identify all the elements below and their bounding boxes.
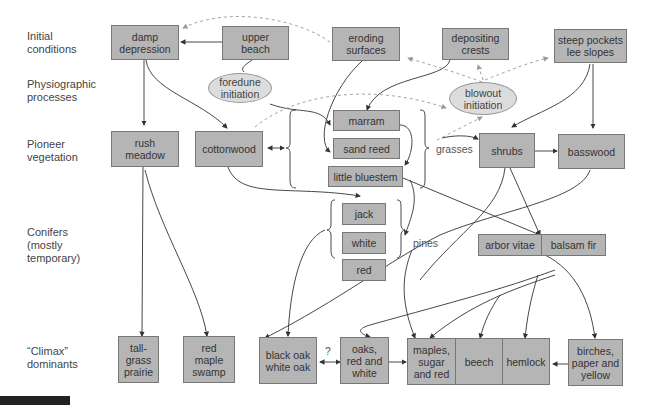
node-tallgrass-prairie: tall- grass prairie bbox=[118, 336, 159, 383]
node-black-oak-white-oak: black oak white oak bbox=[259, 337, 317, 384]
node-upper-beach: upper beach bbox=[222, 26, 289, 60]
node-birches-paper-and-yellow: birches, paper and yellow bbox=[568, 339, 623, 386]
node-blowout-initiation: blowout initiation bbox=[449, 82, 517, 115]
node-hemlock: hemlock bbox=[502, 338, 550, 385]
node-maples-sugar-and-red: maples, sugar and red bbox=[407, 338, 456, 385]
group-label-grasses: grasses bbox=[436, 143, 473, 155]
group-label-pines: pines bbox=[413, 237, 438, 249]
figure-badge bbox=[0, 396, 70, 405]
node-rush-meadow: rush meadow bbox=[111, 131, 179, 167]
node-balsam-fir: balsam fir bbox=[541, 234, 606, 256]
node-shrubs: shrubs bbox=[479, 133, 535, 168]
node-depositing-crests: depositing crests bbox=[442, 28, 509, 60]
question-mark-label: ? bbox=[325, 345, 331, 357]
node-oaks-red-and-white: oaks, red and white bbox=[340, 337, 389, 384]
node-sand-reed: sand reed bbox=[333, 138, 400, 159]
node-red-maple-swamp: red maple swamp bbox=[183, 336, 235, 383]
node-cottonwood: cottonwood bbox=[195, 131, 263, 167]
node-beech: beech bbox=[455, 338, 503, 385]
node-white-pine: white bbox=[342, 232, 386, 254]
node-arbor-vitae: arbor vitae bbox=[478, 234, 542, 256]
node-damp-depression: damp depression bbox=[111, 25, 179, 60]
connector-lines bbox=[0, 0, 648, 405]
node-marram: marram bbox=[333, 110, 400, 131]
node-steep-pockets-lee-slopes: steep pockets lee slopes bbox=[554, 29, 627, 63]
node-eroding-surfaces: eroding surfaces bbox=[332, 27, 400, 61]
node-little-bluestem: little bluestem bbox=[328, 166, 403, 187]
node-red-pine: red bbox=[342, 259, 386, 281]
node-jack-pine: jack bbox=[342, 203, 386, 225]
node-basswood: basswood bbox=[558, 134, 625, 169]
node-foredune-initiation: foredune initiation bbox=[208, 73, 272, 103]
